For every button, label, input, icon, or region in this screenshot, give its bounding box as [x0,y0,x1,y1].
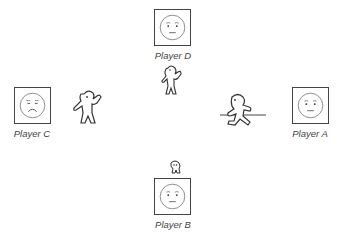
sad-face-icon [15,88,50,123]
player-b-face-box [154,178,191,215]
waving-figure-icon [160,64,186,98]
neutral-face-icon [293,88,328,123]
player-d-face-box [154,9,191,46]
player-a-face-box [292,87,329,124]
player-a-label: Player A [280,128,340,139]
player-d-label: Player D [143,50,203,61]
neutral-face-icon [155,10,190,45]
neutral-face-icon [155,179,190,214]
running-figure-icon [218,93,270,127]
player-b-label: Player B [143,219,203,230]
small-figure-icon [168,160,182,174]
player-c-face-box [14,87,51,124]
player-c-label: Player C [2,128,62,139]
waving-figure-icon [70,88,110,130]
